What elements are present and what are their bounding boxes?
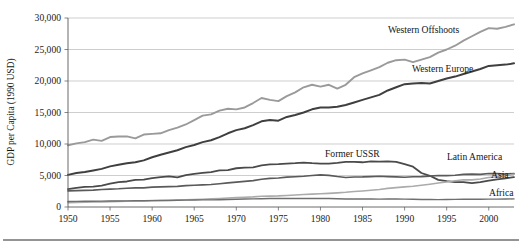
series-label-africa: Africa (489, 187, 514, 198)
y-tick-label: 0 (56, 201, 61, 212)
x-tick-label: 2000 (479, 213, 498, 224)
y-tick-label: 30,000 (35, 12, 62, 23)
x-tick-label: 1995 (437, 213, 456, 224)
y-tick-label: 20,000 (35, 75, 62, 86)
x-axis-ticks-group: 1950195519601965197019751980198519901995… (58, 207, 498, 224)
y-tick-label: 15,000 (35, 107, 62, 118)
y-tick-label: 25,000 (35, 44, 62, 55)
x-tick-label: 1970 (227, 213, 246, 224)
series-label-western-offshoots: Western Offshoots (388, 24, 460, 35)
y-tick-label: 10,000 (35, 138, 62, 149)
x-tick-label: 1950 (58, 213, 77, 224)
x-tick-label: 1990 (395, 213, 414, 224)
x-tick-label: 1955 (100, 213, 119, 224)
chart-figure: 05,00010,00015,00020,00025,00030,000 195… (0, 0, 522, 248)
x-tick-label: 1975 (269, 213, 288, 224)
x-tick-label: 1980 (311, 213, 330, 224)
gdp-per-capita-line-chart: 05,00010,00015,00020,00025,00030,000 195… (0, 0, 522, 248)
series-label-western-europe: Western Europe (412, 63, 473, 74)
series-label-asia: Asia (491, 169, 509, 180)
y-axis-title: GDP per Capita (1990 USD) (6, 58, 17, 165)
series-label-former-ussr: Former USSR (325, 148, 380, 159)
y-axis-ticks-group: 05,00010,00015,00020,00025,00030,000 (35, 12, 68, 212)
series-label-latin-america: Latin America (447, 151, 503, 162)
x-tick-label: 1965 (185, 213, 204, 224)
x-tick-label: 1960 (143, 213, 162, 224)
series-line-africa (68, 198, 514, 201)
series-line-western-offshoots (68, 24, 514, 145)
y-tick-label: 5,000 (39, 170, 61, 181)
x-tick-label: 1985 (353, 213, 372, 224)
